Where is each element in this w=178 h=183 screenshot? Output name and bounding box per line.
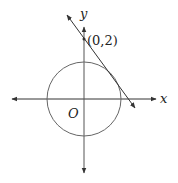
x-axis-label: x	[160, 91, 168, 106]
diagram-canvas: y x O (0,2)	[0, 0, 178, 183]
point-0-2	[83, 38, 86, 41]
y-axis-label: y	[79, 6, 88, 21]
point-label: (0,2)	[87, 33, 118, 48]
tangent-line	[67, 15, 135, 108]
origin-label: O	[68, 106, 79, 121]
